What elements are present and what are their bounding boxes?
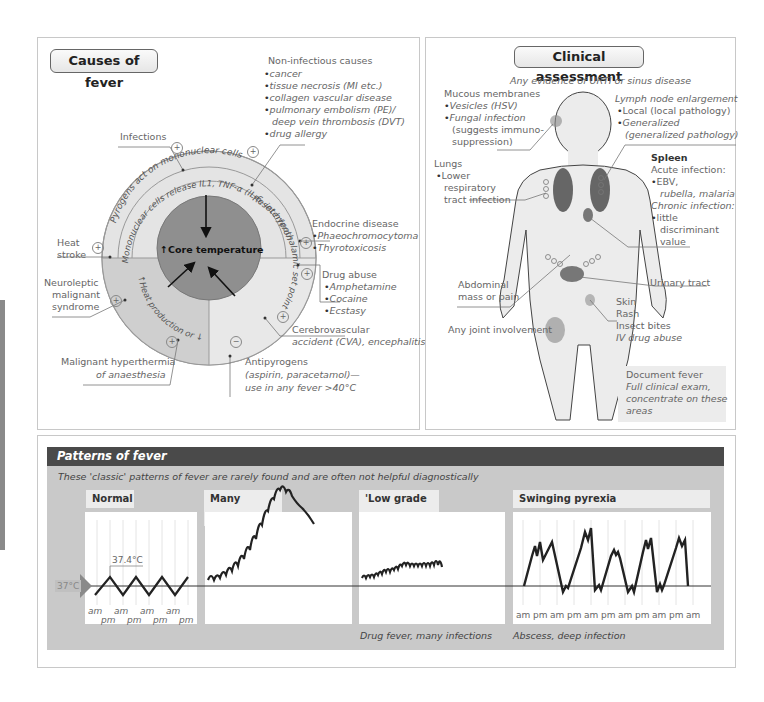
normal-pm-label: pm [179, 614, 193, 626]
fever-charts-graphics [0, 0, 764, 702]
swing-tick: pm [567, 609, 581, 621]
swing-tick: am [584, 609, 598, 621]
normal-pm-label: pm [127, 614, 141, 626]
swing-tick: am [618, 609, 632, 621]
swing-tick: am [516, 609, 530, 621]
baseline-label: 37°C [55, 580, 81, 592]
swing-tick: am [550, 609, 564, 621]
peak-label: 37.4°C [112, 554, 143, 566]
swing-tick: pm [601, 609, 615, 621]
swinging-caption: Abscess, deep infection [513, 630, 626, 642]
swing-tick: pm [669, 609, 683, 621]
normal-pm-label: pm [101, 614, 115, 626]
swing-tick: pm [635, 609, 649, 621]
low-grade-caption: Drug fever, many infections [360, 630, 492, 642]
swing-tick: am [652, 609, 666, 621]
swing-tick: am [686, 609, 700, 621]
normal-pm-label: pm [153, 614, 167, 626]
swing-tick: pm [533, 609, 547, 621]
